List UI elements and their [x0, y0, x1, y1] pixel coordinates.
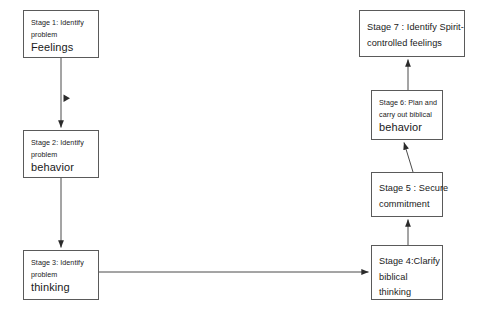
node-stage-6[interactable]: Stage 6: Plan and carry out biblical beh…: [371, 90, 443, 140]
node-stage-3-line-2: problem: [31, 269, 91, 281]
node-stage-2-line-1: Stage 2: Identify: [31, 137, 91, 149]
node-stage-5-line-1: Stage 5 : Secure: [379, 181, 435, 197]
node-stage-3[interactable]: Stage 3: Identify problem thinking: [23, 250, 99, 300]
node-stage-3-line-1: Stage 3: Identify: [31, 257, 91, 269]
node-stage-1-line-1: Stage 1: Identify: [31, 17, 91, 29]
node-stage-7[interactable]: Stage 7 : Identify Spirit- controlled fe…: [359, 10, 465, 57]
node-stage-7-line-1: Stage 7 : Identify Spirit-: [367, 20, 457, 36]
node-stage-6-keyword: behavior: [379, 120, 435, 134]
edge-stage1-to-stage2: [61, 58, 70, 128]
node-stage-6-line-2: carry out biblical: [379, 109, 435, 121]
edge-stage5-to-stage6: [404, 143, 413, 173]
node-stage-3-keyword: thinking: [31, 280, 91, 294]
node-stage-4-line-3: thinking: [379, 285, 435, 301]
node-stage-1[interactable]: Stage 1: Identify problem Feelings: [23, 10, 99, 58]
node-stage-7-line-2: controlled feelings: [367, 36, 457, 52]
node-stage-4-line-2: biblical: [379, 270, 435, 286]
node-stage-2-line-2: problem: [31, 149, 91, 161]
flowchart-canvas: Stage 1: Identify problem Feelings Stage…: [0, 0, 488, 320]
node-stage-4-line-1: Stage 4:Clarify: [379, 254, 435, 270]
node-stage-2[interactable]: Stage 2: Identify problem behavior: [23, 130, 99, 178]
node-stage-6-line-1: Stage 6: Plan and: [379, 97, 435, 109]
node-stage-5[interactable]: Stage 5 : Secure commitment: [371, 172, 443, 217]
node-stage-5-line-2: commitment: [379, 197, 435, 213]
node-stage-1-line-2: problem: [31, 29, 91, 41]
node-stage-1-keyword: Feelings: [31, 40, 91, 54]
node-stage-4[interactable]: Stage 4:Clarify biblical thinking: [371, 245, 443, 300]
node-stage-2-keyword: behavior: [31, 160, 91, 174]
